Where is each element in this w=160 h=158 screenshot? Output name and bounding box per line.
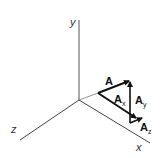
z-axis-label: z <box>11 124 17 135</box>
vector-diagram: y z x A Ax Ay Az <box>0 0 160 158</box>
diagram-canvas <box>0 0 160 158</box>
vector-a-label: A <box>105 76 113 87</box>
x-axis-label: x <box>136 142 142 153</box>
origin-to-a-line <box>79 93 98 100</box>
vector-a <box>98 81 129 93</box>
y-axis-label: y <box>70 17 76 28</box>
z-axis <box>20 100 79 140</box>
vector-ay-label: Ay <box>135 95 146 108</box>
vector-ax-label: Ax <box>114 94 125 107</box>
vector-az-label: Az <box>140 122 151 135</box>
